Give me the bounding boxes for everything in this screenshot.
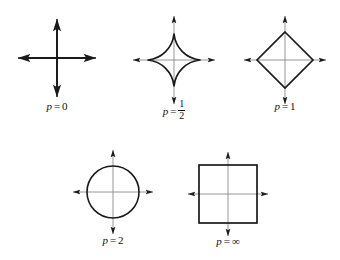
unit-ball-cross-p-0 xyxy=(23,24,91,92)
panel-p-2-drawing xyxy=(64,143,162,243)
axes-p-2 xyxy=(73,150,153,234)
panel-p-one-half-drawing xyxy=(124,8,224,112)
panel-p-infinity xyxy=(179,145,277,245)
caption-p-one-half-fraction: 12 xyxy=(178,99,185,121)
panel-p-0 xyxy=(7,8,107,108)
panel-p-1-drawing xyxy=(235,8,335,112)
panel-p-2 xyxy=(64,143,162,243)
panel-p-1 xyxy=(235,8,335,112)
panel-p-one-half xyxy=(124,8,224,112)
caption-p-0-equals: = xyxy=(52,100,62,112)
caption-p-1-value: 1 xyxy=(290,100,296,112)
caption-p-2-value: 2 xyxy=(118,234,124,246)
caption-p-1-equals: = xyxy=(280,100,290,112)
panel-p-0-drawing xyxy=(7,8,107,108)
fraction-numerator: 1 xyxy=(178,99,185,109)
caption-p-0: p=0 xyxy=(17,101,97,112)
caption-p-infinity-value: ∞ xyxy=(232,235,240,247)
caption-p-infinity: p=∞ xyxy=(188,236,268,247)
panel-p-infinity-drawing xyxy=(179,145,277,245)
caption-p-2: p=2 xyxy=(73,235,153,246)
p-norm-unit-ball-figure: p=0 p=12 xyxy=(0,0,340,260)
caption-p-infinity-equals: = xyxy=(222,235,232,247)
caption-p-one-half-equals: = xyxy=(168,105,178,117)
axes-p-one-half xyxy=(133,16,215,104)
caption-p-one-half: p=12 xyxy=(134,99,214,121)
caption-p-2-equals: = xyxy=(108,234,118,246)
caption-p-0-value: 0 xyxy=(62,100,68,112)
caption-p-1: p=1 xyxy=(245,101,325,112)
caption-p-infinity-variable: p xyxy=(216,235,222,247)
fraction-denominator: 2 xyxy=(178,111,185,121)
